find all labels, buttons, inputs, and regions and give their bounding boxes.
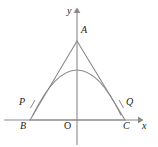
y-axis-label: y <box>67 6 71 16</box>
y-axis <box>74 8 81 146</box>
x-axis-label: x <box>142 121 146 131</box>
point-label-a: A <box>81 25 87 35</box>
y-axis-arrow-icon <box>74 8 81 14</box>
point-label-q: Q <box>126 97 133 107</box>
tangency-tick-q <box>119 100 124 108</box>
origin-label: O <box>64 121 71 131</box>
point-label-c: C <box>123 121 130 131</box>
point-label-b: B <box>20 121 26 131</box>
tangency-tick-p <box>31 100 36 108</box>
point-label-p: P <box>19 97 25 107</box>
geometry-figure: y x O A B C P Q <box>0 0 158 147</box>
